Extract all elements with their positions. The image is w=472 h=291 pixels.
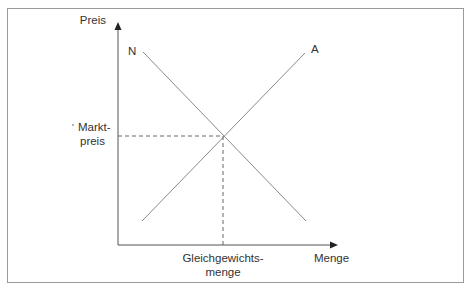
demand-curve-label: N (128, 44, 136, 58)
equilibrium-quantity-label-line1: Gleichgewichts- (173, 251, 273, 265)
y-axis-arrow-icon (115, 22, 122, 30)
y-axis-label: Preis (56, 13, 106, 27)
marker-dot (72, 124, 74, 126)
equilibrium-quantity-label-line2: menge (173, 265, 273, 279)
x-axis-arrow-icon (330, 242, 338, 249)
market-price-label-line1: Markt- (78, 120, 111, 134)
x-axis-label: Menge (314, 251, 349, 265)
supply-curve-label: A (311, 42, 319, 56)
market-price-label-line2: preis (80, 134, 105, 148)
supply-demand-diagram (0, 0, 472, 291)
